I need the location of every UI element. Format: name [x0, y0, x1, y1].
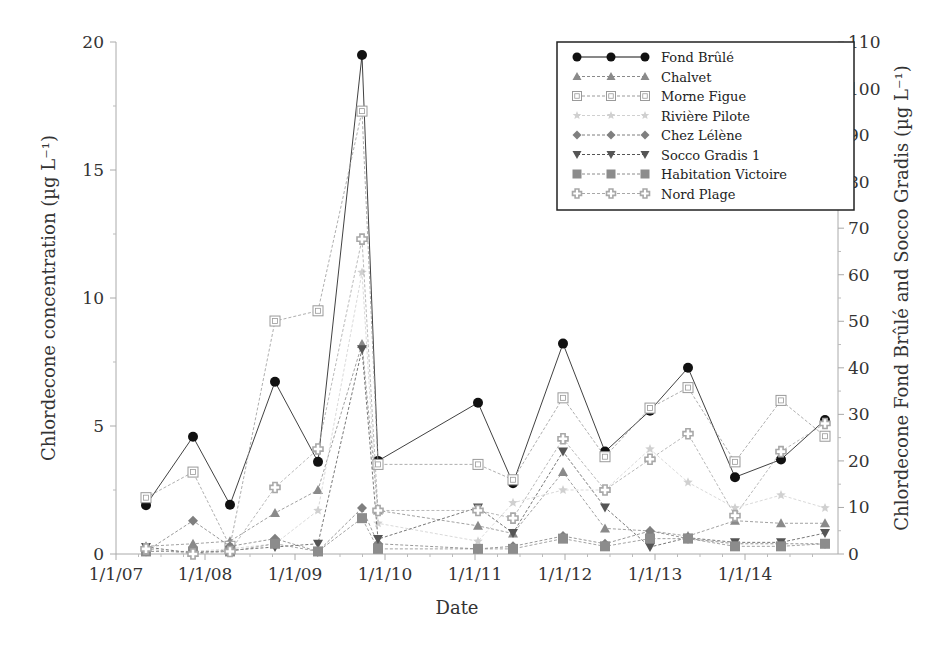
legend-label: Morne Figue: [661, 89, 746, 104]
chlordecone-chart: 0510152001020304050607080901001101/1/071…: [0, 0, 940, 650]
left-tick-label: 15: [82, 160, 104, 180]
right-tick-label: 10: [848, 497, 870, 517]
x-tick-label: 1/1/12: [538, 564, 593, 584]
legend-label: Rivière Pilote: [661, 109, 750, 124]
series-nord-plage: [141, 234, 830, 559]
legend-label: Chez Lélène: [661, 128, 743, 143]
left-tick-label: 10: [82, 288, 104, 308]
x-axis-title: Date: [435, 597, 478, 618]
legend-label: Nord Plage: [661, 187, 736, 202]
left-axis-title: Chlordecone concentration (µg L⁻¹): [38, 135, 59, 461]
legend-label: Chalvet: [661, 70, 712, 85]
right-tick-label: 60: [848, 265, 870, 285]
legend-label: Habitation Victoire: [661, 167, 787, 182]
series-chalvet: [141, 339, 830, 550]
right-tick-label: 0: [848, 544, 859, 564]
x-tick-label: 1/1/13: [628, 564, 683, 584]
left-tick-label: 20: [82, 32, 104, 52]
legend: Fond BrûléChalvetMorne FigueRivière Pilo…: [557, 42, 854, 210]
right-tick-label: 30: [848, 404, 870, 424]
x-tick-label: 1/1/11: [448, 564, 503, 584]
legend-box: [557, 42, 854, 210]
right-tick-label: 40: [848, 358, 870, 378]
right-tick-label: 50: [848, 311, 870, 331]
x-tick-label: 1/1/14: [718, 564, 773, 584]
x-tick-label: 1/1/07: [89, 564, 144, 584]
legend-label: Fond Brûlé: [661, 50, 734, 65]
x-tick-label: 1/1/10: [358, 564, 413, 584]
series-rivi-re-pilote: [141, 267, 830, 555]
series-socco-gradis-1: [141, 345, 830, 558]
right-tick-label: 70: [848, 218, 870, 238]
x-tick-label: 1/1/09: [268, 564, 323, 584]
legend-label: Socco Gradis 1: [661, 148, 760, 163]
x-tick-label: 1/1/08: [178, 564, 233, 584]
left-tick-label: 0: [93, 544, 104, 564]
right-tick-label: 20: [848, 451, 870, 471]
right-axis-title: Chlordecone Fond Brûlé and Socco Gradis …: [891, 65, 912, 530]
series-habitation-victoire: [141, 513, 830, 556]
left-tick-label: 5: [93, 416, 104, 436]
